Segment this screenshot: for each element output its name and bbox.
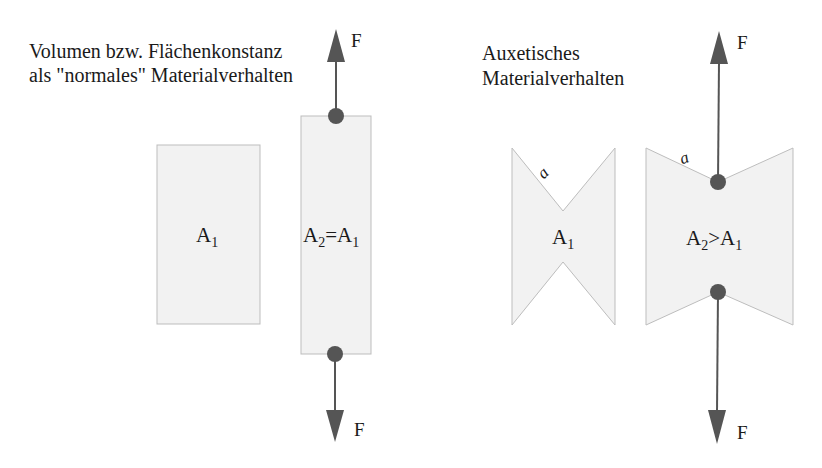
right-title-line-2: Materialverhalten	[482, 67, 624, 89]
bowtie-a2-label: A2>A1	[686, 226, 742, 253]
force-label-top-left: F	[351, 30, 362, 51]
force-arrow-up-icon	[710, 31, 728, 190]
force-arrow-up-icon	[327, 29, 345, 124]
right-title-line-1: Auxetisches	[482, 42, 580, 64]
right-panel: Auxetisches Materialverhalten a A1 a A2>…	[482, 31, 793, 444]
force-label-bottom-right: F	[737, 422, 748, 443]
force-arrow-down-icon	[708, 284, 726, 444]
left-panel: Volumen bzw. Flächenkonstanz als "normal…	[29, 29, 371, 442]
force-arrow-down-icon	[326, 346, 344, 442]
left-title-line-2: als "normales" Materialverhalten	[29, 64, 293, 86]
auxetic-diagram: Volumen bzw. Flächenkonstanz als "normal…	[0, 0, 822, 468]
left-title-line-1: Volumen bzw. Flächenkonstanz	[29, 40, 282, 62]
force-label-top-right: F	[737, 32, 748, 53]
rect-a2-label: A2=A1	[303, 223, 359, 250]
force-label-bottom-left: F	[354, 419, 365, 440]
